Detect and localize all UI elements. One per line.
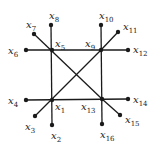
label-x16: x16 [100,129,115,143]
node-x13 [100,97,104,101]
label-x3: x3 [25,121,35,135]
label-x4: x4 [8,95,19,109]
node-x9 [99,48,103,52]
label-x2: x2 [51,130,61,144]
graph-diagram: x1x2x3x4x5x6x7x8x9x10x11x12x13x14x15x16 [0,0,160,146]
node-x6 [24,48,28,52]
label-x1: x1 [55,101,65,115]
node-x10 [99,23,103,27]
node-x8 [49,23,53,27]
node-x4 [24,98,28,102]
node-x15 [118,113,122,117]
label-x6: x6 [8,45,19,59]
node-x1 [50,98,54,102]
edge-x8-x2 [51,25,52,125]
label-x7: x7 [26,19,36,33]
edge-x4-x14 [26,99,128,100]
node-x2 [50,123,54,127]
label-x8: x8 [49,10,59,24]
label-x15: x15 [125,114,140,128]
node-x5 [50,48,54,52]
node-x12 [126,48,130,52]
node-x11 [116,30,120,34]
label-x14: x14 [133,94,148,108]
label-x12: x12 [133,44,148,58]
label-x13: x13 [81,101,96,115]
node-x3 [33,114,37,118]
node-x16 [100,122,104,126]
edge-x13-x15 [102,99,120,115]
edge-x10-x16 [101,25,102,124]
label-x11: x11 [123,21,138,35]
edge-x9-x11 [101,32,118,50]
label-x10: x10 [99,10,114,24]
edges [26,25,128,125]
node-x14 [126,97,130,101]
